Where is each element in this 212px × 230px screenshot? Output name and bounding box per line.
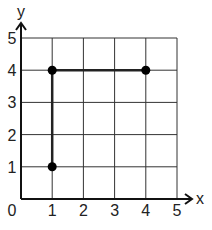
coordinate-grid-chart: 12345123450xy xyxy=(0,0,212,230)
x-tick-label: 4 xyxy=(141,202,150,219)
x-tick-label: 3 xyxy=(110,202,119,219)
y-axis-label: y xyxy=(17,3,25,20)
y-tick-label: 1 xyxy=(8,159,17,176)
y-tick-label: 4 xyxy=(8,62,17,79)
y-tick-label: 2 xyxy=(8,127,17,144)
x-tick-label: 2 xyxy=(79,202,88,219)
y-tick-label: 5 xyxy=(8,30,17,47)
x-tick-label: 1 xyxy=(48,202,57,219)
origin-label: 0 xyxy=(8,202,17,219)
data-point xyxy=(48,162,57,171)
data-point xyxy=(141,66,150,75)
x-axis-label: x xyxy=(196,190,204,207)
data-point xyxy=(48,66,57,75)
x-tick-label: 5 xyxy=(173,202,182,219)
y-tick-label: 3 xyxy=(8,94,17,111)
